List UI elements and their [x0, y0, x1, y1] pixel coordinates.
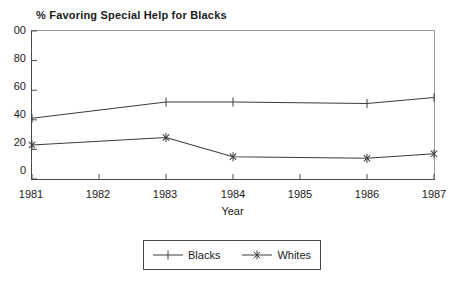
y-tick-label-60: 60 — [0, 81, 26, 92]
y-tick-label-80: 80 — [0, 53, 26, 64]
plot-svg — [32, 31, 434, 179]
x-tick-label-1987: 1987 — [422, 189, 446, 200]
x-tick-label-1983: 1983 — [153, 189, 177, 200]
y-tick-label-40: 40 — [0, 109, 26, 120]
y-tick-label-20: 20 — [0, 137, 26, 148]
chart-figure: % Favoring Special Help for Blacks 00 80… — [0, 0, 465, 284]
plot-area — [31, 30, 435, 180]
y-tick-label-100: 00 — [0, 25, 26, 36]
x-tick-label-1982: 1982 — [86, 189, 110, 200]
legend-marker-star-icon — [242, 249, 272, 261]
legend-label-blacks: Blacks — [188, 250, 220, 261]
x-tick-label-1981: 1981 — [19, 189, 43, 200]
x-tick-label-1985: 1985 — [288, 189, 312, 200]
chart-legend: Blacks Whites — [143, 240, 321, 270]
legend-marker-plus-icon — [153, 249, 183, 261]
legend-entry-blacks: Blacks — [153, 249, 220, 261]
data-series-layer — [29, 93, 437, 163]
chart-title: % Favoring Special Help for Blacks — [36, 9, 227, 21]
x-tick-label-1986: 1986 — [355, 189, 379, 200]
x-tick-label-1984: 1984 — [221, 189, 245, 200]
y-tick-label-0: 0 — [0, 165, 26, 176]
legend-label-whites: Whites — [277, 250, 311, 261]
legend-entry-whites: Whites — [242, 249, 311, 261]
series-whites — [29, 133, 437, 163]
series-blacks — [32, 93, 434, 123]
x-axis-title: Year — [0, 206, 465, 217]
